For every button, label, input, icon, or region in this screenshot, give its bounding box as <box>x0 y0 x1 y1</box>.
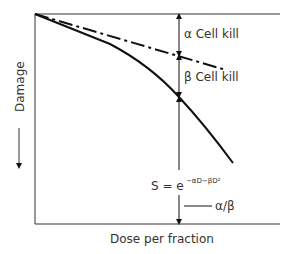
alpha-cell-kill-label: α Cell kill <box>184 27 239 41</box>
x-axis-label: Dose per fraction <box>110 232 214 246</box>
formula-exponent: −αD−βD² <box>186 177 221 185</box>
y-axis-label: Damage <box>13 61 27 112</box>
alpha-beta-ratio-label: α/β <box>215 199 235 213</box>
beta-cell-kill-label: β Cell kill <box>184 70 239 84</box>
formula-base: S = e <box>151 179 184 193</box>
alpha-linear-line <box>35 14 226 70</box>
lq-model-diagram: α Cell kill β Cell kill S = e −αD−βD² α/… <box>0 0 294 254</box>
